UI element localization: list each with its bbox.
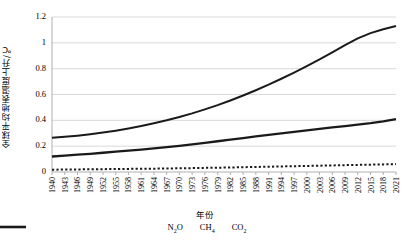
legend-label: N2O — [168, 222, 183, 234]
legend-label: CH4 — [200, 222, 215, 234]
chart-legend: N2OCH4CO2 — [0, 222, 410, 234]
y-tick-label: 1 — [20, 37, 46, 47]
x-tick-label: 2000 — [303, 177, 312, 193]
x-tick-label: 1958 — [124, 177, 133, 193]
chart-container: 全球平均地表温度上升/℃ 1.210.80.60.40.20 194019431… — [0, 0, 410, 243]
series-line — [52, 164, 396, 170]
x-tick-label: 1988 — [252, 177, 261, 193]
y-tick-label: 0.2 — [20, 140, 46, 150]
x-tick-label: 1952 — [99, 177, 108, 193]
x-tick-label: 2021 — [392, 177, 401, 193]
x-tick-label: 2018 — [379, 177, 388, 193]
plot-area — [0, 0, 410, 243]
x-tick-label: 1940 — [48, 177, 57, 193]
x-tick-label: 2012 — [354, 177, 363, 193]
y-tick-label: 0.6 — [20, 89, 46, 99]
x-tick-label: 1943 — [61, 177, 70, 193]
x-tick-label: 1949 — [86, 177, 95, 193]
y-tick-label: 0.8 — [20, 63, 46, 73]
x-tick-label: 1973 — [188, 177, 197, 193]
x-tick-label: 1946 — [73, 177, 82, 193]
x-tick-label: 1982 — [226, 177, 235, 193]
x-tick-label: 1961 — [137, 177, 146, 193]
y-tick-label: 0 — [20, 166, 46, 176]
x-axis-title: 年份 — [0, 208, 410, 220]
x-tick-label: 1976 — [201, 177, 210, 193]
x-tick-label: 1964 — [150, 177, 159, 193]
x-tick-label: 2006 — [328, 177, 337, 193]
x-tick-label: 1967 — [163, 177, 172, 193]
y-tick-label: 0.4 — [20, 114, 46, 124]
x-tick-label: 2009 — [341, 177, 350, 193]
x-tick-label: 1994 — [277, 177, 286, 193]
series-line — [52, 119, 396, 156]
legend-item[interactable]: N2O — [164, 222, 183, 234]
y-tick-label: 1.2 — [20, 11, 46, 21]
x-tick-label: 1979 — [214, 177, 223, 193]
x-tick-label: 1970 — [175, 177, 184, 193]
legend-item[interactable]: CO2 — [228, 222, 247, 234]
x-tick-label: 2003 — [316, 177, 325, 193]
legend-item[interactable]: CH4 — [196, 222, 215, 234]
x-tick-label: 1991 — [265, 177, 274, 193]
x-tick-label: 1997 — [290, 177, 299, 193]
x-tick-label: 2015 — [367, 177, 376, 193]
legend-label: CO2 — [232, 222, 247, 234]
x-tick-label: 1955 — [112, 177, 121, 193]
x-tick-label: 1985 — [239, 177, 248, 193]
